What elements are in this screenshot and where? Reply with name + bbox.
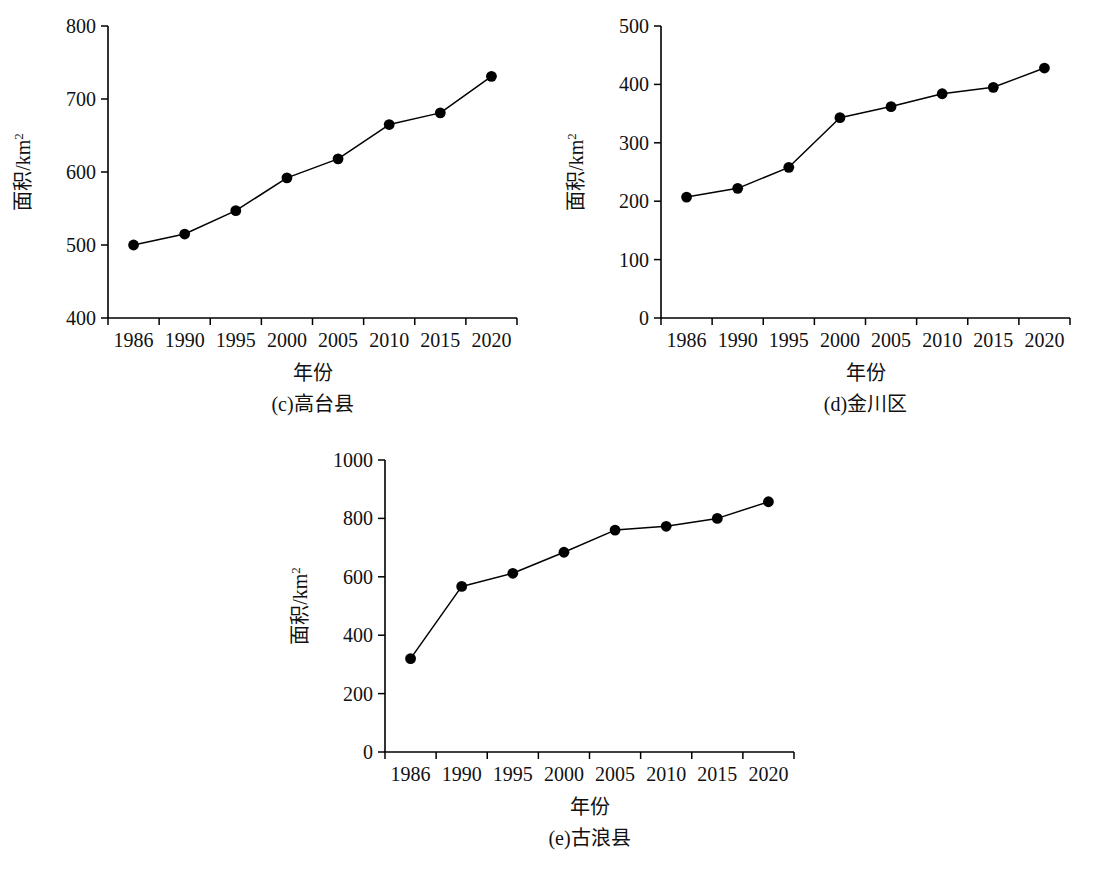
y-axis-title: 面积/km2 xyxy=(564,133,587,211)
x-tick-label: 1990 xyxy=(718,329,758,351)
chart-panel-e: 0200400600800100019861990199520002005201… xyxy=(277,434,830,874)
y-axis-title: 面积/km2 xyxy=(288,567,311,645)
y-tick-label: 700 xyxy=(66,88,96,110)
y-tick-label: 600 xyxy=(66,161,96,183)
x-tick-label: 1986 xyxy=(667,329,707,351)
y-tick-label: 1000 xyxy=(333,449,373,471)
x-tick-label: 1990 xyxy=(442,763,482,785)
series-markers-d xyxy=(681,63,1050,203)
x-tick-label: 2015 xyxy=(973,329,1013,351)
data-point xyxy=(610,525,621,536)
data-point xyxy=(886,101,897,112)
y-tick-label: 500 xyxy=(619,15,649,37)
x-axis-ticks-c: 19861990199520002005201020152020 xyxy=(108,318,517,351)
x-tick-label: 2005 xyxy=(318,329,358,351)
data-point xyxy=(435,107,446,118)
data-point xyxy=(732,183,743,194)
y-tick-label: 0 xyxy=(363,741,373,763)
x-tick-label: 2020 xyxy=(748,763,788,785)
axis-spines-d xyxy=(661,26,1070,318)
panel-caption: (c)高台县 xyxy=(271,393,353,416)
data-point xyxy=(681,192,692,203)
data-point xyxy=(282,172,293,183)
x-tick-label: 2010 xyxy=(922,329,962,351)
x-axis-ticks-e: 19861990199520002005201020152020 xyxy=(385,752,794,785)
y-axis-title: 面积/km2 xyxy=(11,133,34,211)
y-tick-label: 0 xyxy=(639,307,649,329)
chart-svg-e: 0200400600800100019861990199520002005201… xyxy=(277,434,830,874)
series-markers-c xyxy=(128,71,497,250)
data-point xyxy=(835,112,846,123)
x-tick-label: 1986 xyxy=(391,763,431,785)
x-tick-label: 1995 xyxy=(216,329,256,351)
data-point xyxy=(559,547,570,558)
data-point xyxy=(128,240,139,251)
data-point xyxy=(1039,63,1050,74)
data-point xyxy=(783,162,794,173)
panel-caption: (e)古浪县 xyxy=(548,827,630,850)
y-tick-label: 400 xyxy=(619,73,649,95)
series-markers-e xyxy=(405,496,774,664)
plot-area-d: 0100200300400500198619901995200020052010… xyxy=(553,0,1107,440)
data-point xyxy=(230,205,241,216)
plot-area-c: 4005006007008001986199019952000200520102… xyxy=(0,0,553,440)
data-point xyxy=(712,513,723,524)
axis-spines-e xyxy=(385,460,794,752)
y-tick-label: 200 xyxy=(343,683,373,705)
y-tick-label: 300 xyxy=(619,132,649,154)
data-point xyxy=(179,229,190,240)
x-tick-label: 2005 xyxy=(871,329,911,351)
y-tick-label: 800 xyxy=(66,15,96,37)
data-point xyxy=(486,71,497,82)
y-tick-label: 600 xyxy=(343,566,373,588)
x-tick-label: 2010 xyxy=(646,763,686,785)
x-axis-title: 年份 xyxy=(570,796,610,818)
plot-area-e: 0200400600800100019861990199520002005201… xyxy=(277,434,830,874)
chart-svg-c: 4005006007008001986199019952000200520102… xyxy=(0,0,553,440)
x-tick-label: 2020 xyxy=(1024,329,1064,351)
x-tick-label: 2000 xyxy=(267,329,307,351)
data-point xyxy=(405,653,416,664)
y-axis-ticks-c: 400500600700800 xyxy=(66,15,108,329)
series-line-c xyxy=(134,76,492,245)
x-tick-label: 2020 xyxy=(471,329,511,351)
axis-spines-c xyxy=(108,26,517,318)
y-tick-label: 100 xyxy=(619,249,649,271)
x-tick-label: 2010 xyxy=(369,329,409,351)
y-tick-label: 400 xyxy=(66,307,96,329)
x-tick-label: 1986 xyxy=(114,329,154,351)
y-axis-ticks-e: 02004006008001000 xyxy=(333,449,385,763)
chart-svg-d: 0100200300400500198619901995200020052010… xyxy=(553,0,1106,440)
y-tick-label: 500 xyxy=(66,234,96,256)
x-axis-title: 年份 xyxy=(846,362,886,384)
data-point xyxy=(988,82,999,93)
chart-panel-c: 4005006007008001986199019952000200520102… xyxy=(0,0,553,440)
series-line-e xyxy=(411,502,769,659)
panel-caption: (d)金川区 xyxy=(824,393,907,416)
y-axis-ticks-d: 0100200300400500 xyxy=(619,15,661,329)
data-point xyxy=(937,88,948,99)
x-tick-label: 2000 xyxy=(544,763,584,785)
x-tick-label: 1995 xyxy=(769,329,809,351)
y-tick-label: 800 xyxy=(343,507,373,529)
data-point xyxy=(661,521,672,532)
data-point xyxy=(384,119,395,130)
x-axis-ticks-d: 19861990199520002005201020152020 xyxy=(661,318,1070,351)
y-tick-label: 200 xyxy=(619,190,649,212)
y-tick-label: 400 xyxy=(343,624,373,646)
x-tick-label: 2015 xyxy=(697,763,737,785)
data-point xyxy=(456,581,467,592)
data-point xyxy=(333,153,344,164)
data-point xyxy=(507,568,518,579)
x-tick-label: 2000 xyxy=(820,329,860,351)
x-tick-label: 2015 xyxy=(420,329,460,351)
data-point xyxy=(763,496,774,507)
x-tick-label: 1990 xyxy=(165,329,205,351)
x-axis-title: 年份 xyxy=(293,362,333,384)
x-tick-label: 2005 xyxy=(595,763,635,785)
x-tick-label: 1995 xyxy=(493,763,533,785)
chart-panel-d: 0100200300400500198619901995200020052010… xyxy=(553,0,1107,440)
